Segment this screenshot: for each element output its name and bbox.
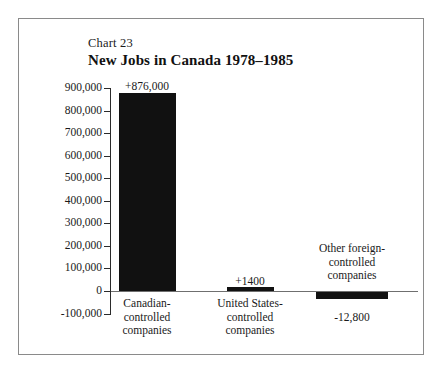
y-tick-label: -100,000 (26, 308, 102, 320)
y-tick-label: 0 (26, 285, 102, 297)
y-tick-label-text: 400,000 (30, 195, 102, 207)
y-tick-label-text: 100,000 (30, 262, 102, 274)
y-tick-mark (104, 178, 111, 179)
y-tick-label-text: 500,000 (30, 172, 102, 184)
category-label-line: United States- (195, 297, 305, 311)
y-tick-label-text: 0 (30, 285, 102, 297)
y-tick-mark (104, 223, 111, 224)
category-label-line: companies (195, 324, 305, 338)
category-label: United States-controlledcompanies (195, 297, 305, 338)
y-tick-label-text: 700,000 (30, 127, 102, 139)
y-tick-label-text: 200,000 (30, 240, 102, 252)
category-label: Canadian-controlledcompanies (92, 297, 202, 338)
bar (119, 93, 176, 291)
y-tick-mark (104, 133, 111, 134)
category-label-line: companies (92, 324, 202, 338)
bar-value-label: +1400 (190, 275, 310, 288)
plot-area: 900,000800,000700,000600,000500,000400,0… (0, 0, 444, 376)
y-tick-label: 800,000 (26, 105, 102, 117)
y-tick-mark (104, 246, 111, 247)
chart-figure: Chart 23 New Jobs in Canada 1978–1985 90… (0, 0, 444, 376)
category-label-line: controlled (92, 311, 202, 325)
category-label-line: Other foreign- (297, 242, 407, 256)
y-tick-mark (104, 268, 111, 269)
y-tick-label: 400,000 (26, 195, 102, 207)
category-label-line: companies (297, 269, 407, 283)
y-tick-label: 200,000 (26, 240, 102, 252)
bar (316, 292, 388, 299)
category-label-line: controlled (195, 311, 305, 325)
y-tick-mark (104, 156, 111, 157)
category-label: Other foreign-controlledcompanies (297, 242, 407, 283)
y-tick-label-text: 300,000 (30, 217, 102, 229)
category-label-line: Canadian- (92, 297, 202, 311)
y-tick-mark (104, 111, 111, 112)
y-tick-mark (104, 201, 111, 202)
y-tick-label: 500,000 (26, 172, 102, 184)
y-tick-label: 700,000 (26, 127, 102, 139)
bar-value-label: +876,000 (87, 80, 207, 93)
y-tick-label-text: 800,000 (30, 105, 102, 117)
y-tick-label: 300,000 (26, 217, 102, 229)
y-tick-mark (104, 291, 111, 292)
y-tick-label: 600,000 (26, 150, 102, 162)
y-tick-label-text: 600,000 (30, 150, 102, 162)
bar-value-label: -12,800 (292, 311, 412, 324)
y-tick-label: 100,000 (26, 262, 102, 274)
category-label-line: controlled (297, 256, 407, 270)
